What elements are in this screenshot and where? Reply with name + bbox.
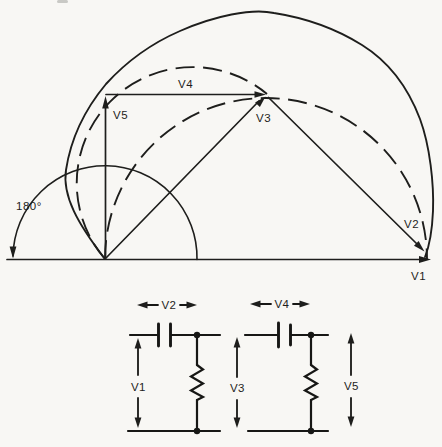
v3-arrowhead — [255, 97, 265, 108]
v3-dim-label: V3 — [230, 382, 245, 394]
scan-artifact — [57, 0, 68, 3]
v5-dimension-arrow: V5 — [344, 333, 359, 427]
resistor-symbol — [191, 365, 203, 400]
v2-dim-label: V2 — [161, 299, 176, 311]
v5-label: V5 — [113, 109, 128, 121]
v5-dim-label: V5 — [344, 380, 359, 392]
rc-circuit-left: V2 V1 — [128, 299, 220, 434]
outer-solid-arc — [65, 12, 433, 259]
angle-arc-arrowhead — [10, 247, 17, 259]
v3-label: V3 — [256, 112, 271, 124]
v1-label: V1 — [411, 270, 426, 282]
capacitor-symbol — [279, 323, 291, 347]
capacitor-symbol — [159, 324, 171, 346]
angle-label: 180° — [16, 200, 42, 212]
v1-dimension-arrow: V1 — [131, 338, 146, 428]
v4-dimension-arrow: V4 — [250, 298, 310, 310]
v4-label: V4 — [178, 78, 193, 90]
v2-vector — [269, 98, 418, 245]
phasor-circuit-figure: 180° V1 V5 V4 V3 V2 — [0, 0, 442, 447]
v5-arrowhead — [102, 96, 109, 109]
rc-circuit-right: V4 V3 V5 — [230, 298, 359, 434]
phasor-diagram: 180° V1 V5 V4 V3 V2 — [7, 12, 433, 282]
v1-dim-label: V1 — [131, 381, 146, 393]
v2-dimension-arrow: V2 — [137, 299, 197, 311]
v3-vector — [105, 101, 259, 259]
v2-label: V2 — [404, 218, 419, 230]
v4-dim-label: V4 — [274, 298, 289, 310]
resistor-symbol — [305, 365, 317, 400]
v3-dimension-arrow: V3 — [230, 337, 245, 428]
